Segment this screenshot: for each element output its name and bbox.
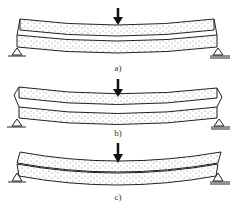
down-arrow-icon bbox=[113, 143, 123, 163]
panel-label-b: b) bbox=[98, 128, 138, 138]
panel-c bbox=[8, 143, 230, 185]
roller-support-icon bbox=[210, 48, 230, 58]
panel-b bbox=[7, 79, 230, 129]
panel-label-c: c) bbox=[98, 192, 138, 202]
down-arrow-icon bbox=[113, 8, 123, 25]
roller-support-icon bbox=[211, 119, 230, 129]
panel-label-a: a) bbox=[98, 63, 138, 73]
panel-a bbox=[8, 8, 230, 58]
beam-diagram bbox=[0, 0, 234, 209]
triangle-support-icon bbox=[8, 48, 26, 56]
triangle-support-icon bbox=[7, 119, 26, 127]
